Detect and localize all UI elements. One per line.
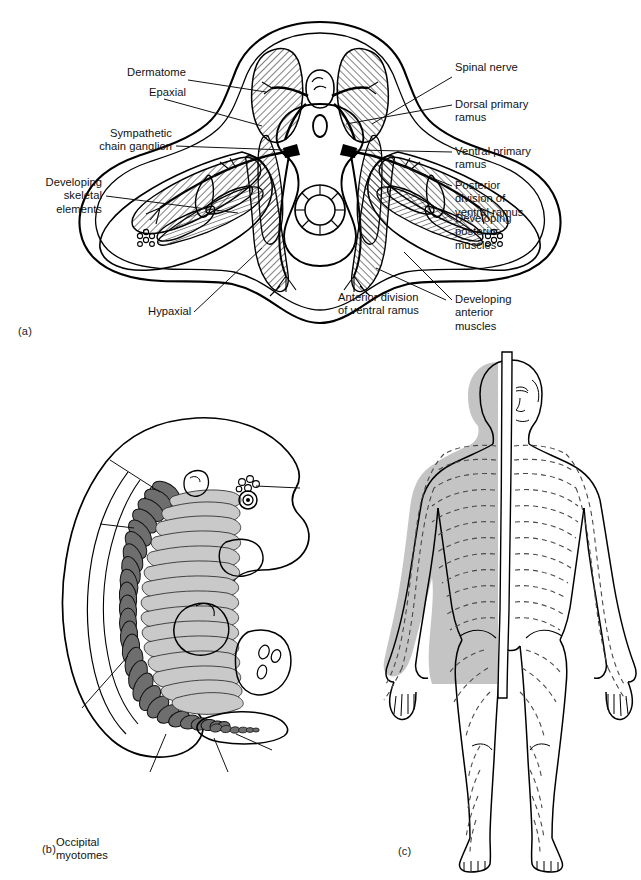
label-dorsal-primary-ramus: Dorsal primary ramus — [455, 98, 605, 125]
label-dermatome: Dermatome — [60, 66, 186, 79]
label-developing-posterior-muscles: Developing posterior muscles — [455, 212, 605, 252]
label-hypaxial: Hypaxial — [148, 305, 238, 318]
eye-muscle-primordia — [236, 476, 259, 492]
label-developing-skeletal-elements: Developing skeletal elements — [4, 176, 102, 216]
panel-letter-c: (c) — [398, 845, 411, 857]
dermatome-bands-right — [514, 445, 626, 854]
eye-primordium — [239, 491, 257, 509]
figure-root: Dermatome Epaxial Sympathetic chain gang… — [0, 0, 641, 880]
face-features — [516, 380, 539, 422]
panel-letter-a: (a) — [18, 325, 32, 337]
panel-c-adult-dermatomes — [380, 350, 641, 880]
sympathetic-ganglion-right — [340, 144, 357, 158]
lower-limb-bud — [236, 630, 291, 695]
limb-bud-left — [100, 152, 272, 270]
panel-c-drawing — [380, 350, 641, 880]
label-developing-anterior-muscles: Developing anterior muscles — [455, 293, 605, 333]
label-ventral-primary-ramus: Ventral primary ramus — [455, 145, 605, 172]
hypaxial-sheet-right — [357, 135, 382, 244]
panel-a-transverse-section: Dermatome Epaxial Sympathetic chain gang… — [0, 0, 641, 350]
panel-b-embryo-myotomes: Occipital myotomes Cervical myotomes Tho… — [0, 400, 390, 880]
panel-b-drawing — [0, 400, 390, 880]
label-spinal-nerve: Spinal nerve — [455, 61, 605, 74]
knee-contours — [472, 744, 550, 750]
caudal-tail — [197, 712, 288, 744]
sympathetic-ganglion-left — [283, 144, 300, 158]
label-epaxial: Epaxial — [60, 86, 186, 99]
panel-letter-b: (b) — [42, 843, 56, 855]
midline-column — [498, 352, 512, 698]
hypaxial-sheet-left — [258, 135, 283, 244]
label-occipital-myotomes: Occipital myotomes — [56, 836, 166, 863]
label-sympathetic-chain-ganglion: Sympathetic chain ganglion — [20, 127, 172, 154]
